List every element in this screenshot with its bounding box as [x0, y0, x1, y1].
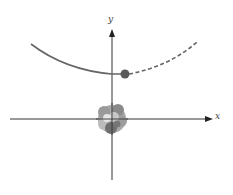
diagram-canvas — [0, 0, 233, 195]
trajectory-solid-curve — [31, 44, 122, 74]
trajectory-dashed-curve — [129, 42, 197, 74]
x-axis-label: x — [215, 111, 220, 121]
y-axis-label: y — [108, 14, 113, 24]
y-axis-arrow-icon — [109, 29, 115, 37]
particle-dot — [121, 70, 130, 79]
x-axis-arrow-icon — [205, 116, 213, 122]
